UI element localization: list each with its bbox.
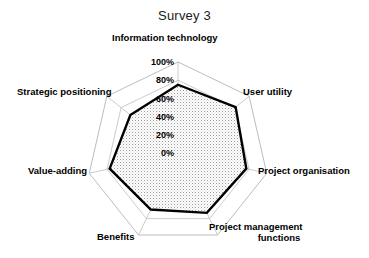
axis-label-project-management-functions: Project management functions bbox=[209, 222, 349, 243]
pm-functions-line-1: Project management bbox=[209, 221, 302, 232]
tick-label-80: 80% bbox=[126, 75, 174, 85]
tick-label-60: 60% bbox=[126, 94, 174, 104]
tick-label-20: 20% bbox=[126, 130, 174, 140]
axis-label-benefits: Benefits bbox=[97, 232, 134, 243]
axis-label-value-adding: Value-adding bbox=[28, 166, 87, 177]
tick-label-0: 0% bbox=[126, 148, 174, 158]
axis-label-project-organisation: Project organisation bbox=[258, 166, 350, 177]
pm-functions-line-2: functions bbox=[209, 233, 349, 244]
axis-label-strategic-positioning: Strategic positioning bbox=[17, 87, 111, 98]
radar-chart: Survey 3 Information technology User uti… bbox=[0, 0, 369, 258]
axis-label-information-technology: Information technology bbox=[112, 33, 218, 44]
axis-label-user-utility: User utility bbox=[243, 87, 292, 98]
tick-label-40: 40% bbox=[126, 112, 174, 122]
tick-label-100: 100% bbox=[126, 57, 174, 67]
